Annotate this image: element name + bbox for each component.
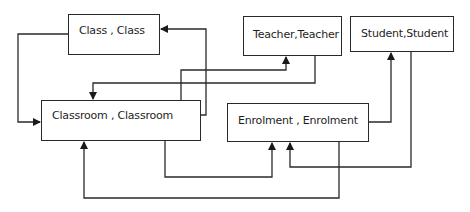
entity-classroom[interactable]: Classroom , Classroom (41, 100, 201, 141)
connector-enrolment-to-classroom (84, 141, 339, 198)
connector-classroom-to-enrolment (165, 140, 272, 177)
connector-enrolment-to-student (368, 53, 391, 122)
entity-teacher-label: Teacher,Teacher (253, 28, 339, 41)
entity-student[interactable]: Student,Student (350, 16, 454, 52)
entity-enrolment-label: Enrolment , Enrolment (238, 114, 358, 127)
entity-enrolment[interactable]: Enrolment , Enrolment (227, 103, 369, 142)
entity-student-label: Student,Student (361, 27, 448, 40)
connector-teacher-to-classroom (93, 55, 315, 99)
entity-classroom-label: Classroom , Classroom (52, 109, 173, 122)
connector-classroom-to-teacher (181, 57, 286, 100)
entity-class-label: Class , Class (79, 24, 145, 37)
entity-teacher[interactable]: Teacher,Teacher (243, 16, 342, 56)
entity-class[interactable]: Class , Class (68, 14, 160, 55)
